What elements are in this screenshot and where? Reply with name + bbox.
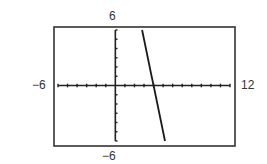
ymax-label: 6 [109, 10, 116, 22]
x-axis [58, 84, 230, 88]
xmax-label: 12 [241, 79, 254, 91]
ymin-label: −6 [102, 150, 116, 162]
xmin-label: −6 [32, 79, 46, 91]
